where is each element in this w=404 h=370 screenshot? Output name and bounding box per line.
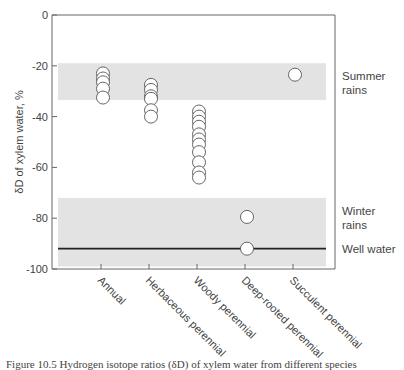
- data-point: [241, 210, 254, 223]
- winter-rains-label: Winter: [342, 205, 375, 217]
- x-tick-label: Herbaceous perennial: [144, 274, 229, 359]
- summer-rains-label: Summer: [342, 70, 386, 82]
- y-tick-label: -80: [32, 212, 48, 224]
- summer-rains-label-2: rains: [342, 84, 367, 96]
- figure-caption: Figure 10.5 Hydrogen isotope ratios (δD)…: [6, 358, 357, 370]
- y-tick-label: -100: [26, 263, 48, 275]
- winter-rains-band: [58, 198, 326, 267]
- well-water-label: Well water: [342, 243, 396, 255]
- x-tick-label: Annual: [96, 274, 129, 307]
- data-point: [289, 68, 302, 81]
- data-point: [241, 242, 254, 255]
- data-point: [145, 110, 158, 123]
- y-tick-label: -40: [32, 111, 48, 123]
- data-point: [193, 171, 206, 184]
- y-tick-label: -60: [32, 161, 48, 173]
- data-point: [97, 91, 110, 104]
- y-axis-label: δD of xylem water, %: [13, 90, 25, 194]
- y-tick-label: 0: [42, 9, 48, 21]
- winter-rains-label-2: rains: [342, 219, 367, 231]
- x-tick-label: Deep-rooted perennial: [240, 274, 326, 360]
- y-tick-label: -20: [32, 60, 48, 72]
